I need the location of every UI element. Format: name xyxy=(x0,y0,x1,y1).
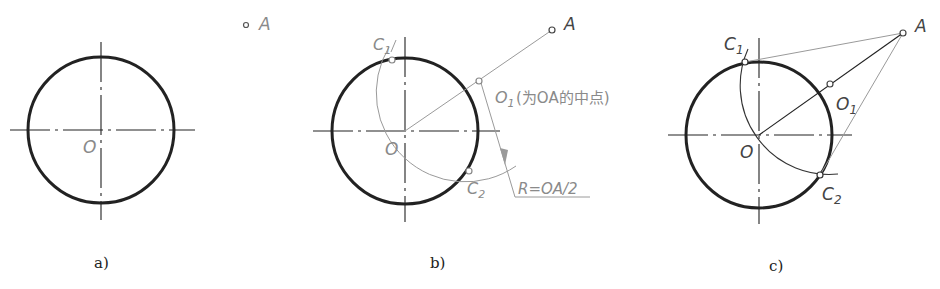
panel-b: O A C1 C2 O1 (为OA的中点) R=OA/2 b) xyxy=(313,14,610,272)
c2-label: C2 xyxy=(467,179,485,201)
arrow-head xyxy=(500,148,508,165)
radius-note: R=OA/2 xyxy=(518,180,578,198)
c1-label: C1 xyxy=(373,35,391,57)
caption-a: a) xyxy=(94,254,109,272)
panel-c: O A C1 C2 O1 c) xyxy=(668,16,927,275)
point-a-label: A xyxy=(258,14,271,34)
tangent-line-ac1 xyxy=(745,33,903,62)
point-a-label: A xyxy=(914,16,927,36)
panel-a: O A a) xyxy=(10,14,271,272)
midpoint-o1-marker xyxy=(476,78,482,84)
point-a-marker xyxy=(549,27,555,33)
point-a-marker xyxy=(244,23,249,28)
center-label-o: O xyxy=(385,139,398,159)
construction-arc xyxy=(376,47,516,182)
tangent-line-ac2 xyxy=(820,33,903,175)
o1-label: O1 xyxy=(836,94,857,117)
c2-label: C2 xyxy=(822,184,842,207)
o1-label: O1 xyxy=(495,88,515,110)
caption-b: b) xyxy=(430,254,445,272)
midpoint-o1-marker xyxy=(827,81,833,87)
c1-label: C1 xyxy=(724,34,744,57)
tangent-point-c1-marker xyxy=(742,59,748,65)
point-a-label: A xyxy=(563,14,576,34)
c1-tick xyxy=(391,40,396,52)
tangent-construction-diagram: O A a) O A C1 C2 O1 (为OA的中点) R=OA/2 b) xyxy=(0,0,940,289)
point-a-marker xyxy=(900,30,906,36)
center-label-o: O xyxy=(740,142,753,162)
tangent-point-c2-marker xyxy=(817,172,823,178)
o1-note: (为OA的中点) xyxy=(516,89,610,107)
tangent-point-c1-marker xyxy=(389,57,395,63)
caption-c: c) xyxy=(769,257,783,275)
tangent-point-c2-marker xyxy=(466,168,472,174)
center-label-o: O xyxy=(83,137,96,157)
